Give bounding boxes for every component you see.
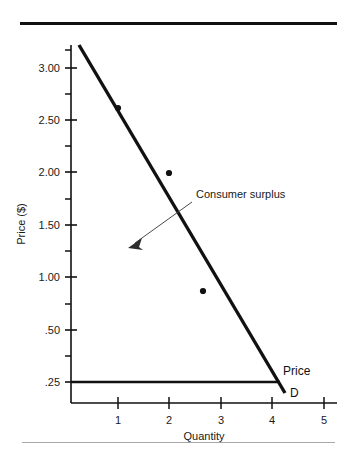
y-axis-minor-ticks <box>65 50 71 356</box>
data-point-q3 <box>200 288 206 294</box>
demand-curve-label: D <box>290 386 299 400</box>
y-tick-label-1-50: 1.50 <box>39 219 60 231</box>
consumer-surplus-label: Consumer surplus <box>196 188 286 200</box>
y-axis-tick-labels: 3.00 2.50 2.00 1.50 1.00 .50 .25 <box>39 62 60 388</box>
y-tick-label-0-50: .50 <box>45 324 60 336</box>
y-tick-label-1-00: 1.00 <box>39 271 60 283</box>
demand-curve-markers <box>115 105 206 294</box>
consumer-surplus-chart: 3.00 2.50 2.00 1.50 1.00 .50 .25 1 2 3 4… <box>0 0 352 461</box>
x-tick-label-1: 1 <box>115 414 121 426</box>
y-tick-label-3-00: 3.00 <box>39 62 60 74</box>
data-point-q1 <box>115 105 121 111</box>
x-axis-tick-labels: 1 2 3 4 5 <box>115 414 327 426</box>
x-tick-label-3: 3 <box>218 414 224 426</box>
figure-container: 3.00 2.50 2.00 1.50 1.00 .50 .25 1 2 3 4… <box>0 0 352 461</box>
price-line-label: Price <box>283 364 311 378</box>
x-tick-label-5: 5 <box>321 414 327 426</box>
y-tick-label-2-00: 2.00 <box>39 166 60 178</box>
y-tick-label-0-25: .25 <box>45 376 60 388</box>
consumer-surplus-arrow-head <box>128 238 143 250</box>
demand-curve-line <box>79 45 285 393</box>
y-tick-label-2-50: 2.50 <box>39 114 60 126</box>
x-tick-label-2: 2 <box>166 414 172 426</box>
x-tick-label-4: 4 <box>269 414 275 426</box>
data-point-q2 <box>166 170 172 176</box>
bottom-divider-rule <box>22 442 335 443</box>
consumer-surplus-annotation: Consumer surplus <box>128 188 286 250</box>
x-axis-title: Quantity <box>184 430 225 442</box>
y-axis-title: Price ($) <box>15 203 27 245</box>
